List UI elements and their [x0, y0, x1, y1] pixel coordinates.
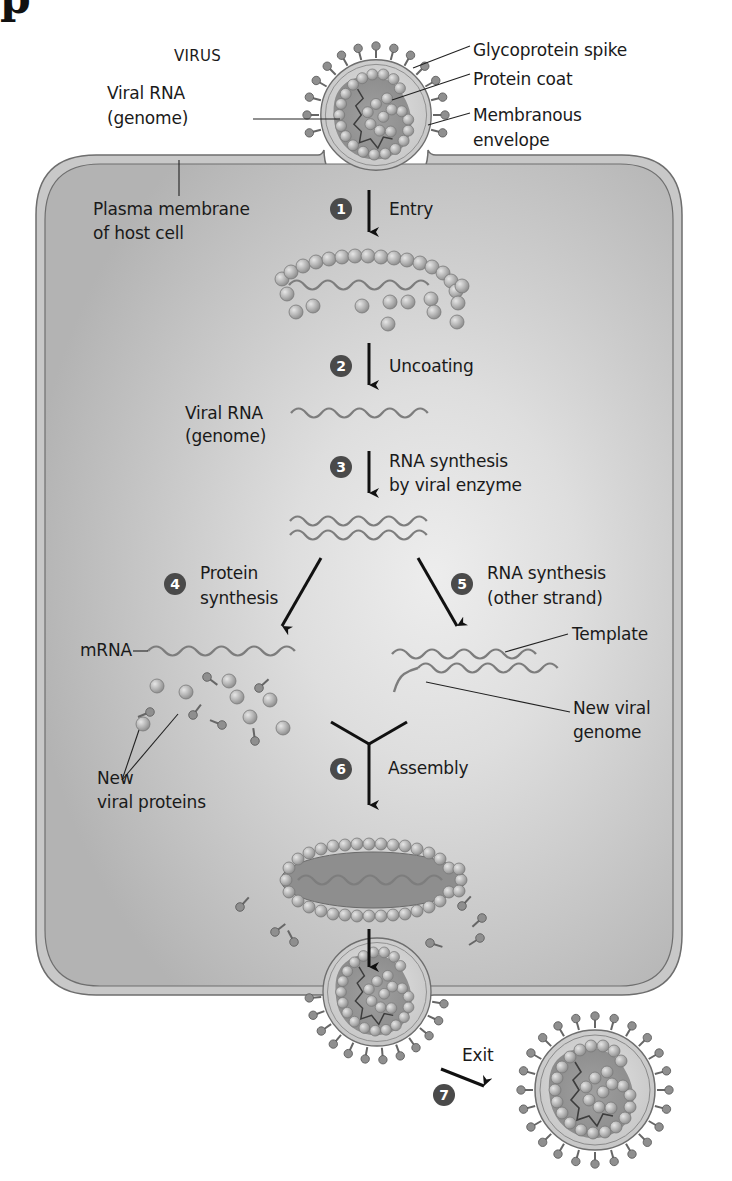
step-6-label: Assembly: [388, 758, 468, 779]
mrna-label: mRNA: [80, 640, 132, 661]
step-4-label-2: synthesis: [200, 588, 278, 609]
diagram-graphics: [0, 0, 732, 1181]
membranous-envelope-label-2: envelope: [473, 130, 550, 151]
released-virion: [517, 1012, 673, 1168]
step-7-label: Exit: [462, 1045, 493, 1066]
viral-rna-top-label-2: (genome): [107, 108, 188, 129]
virus-title: VIRUS: [174, 46, 221, 67]
new-viral-genome-label-2: genome: [573, 722, 641, 743]
step-1-label: Entry: [389, 199, 433, 220]
viral-rna-mid-label-1: Viral RNA: [185, 403, 263, 424]
protein-coat-label: Protein coat: [473, 69, 572, 90]
budding-virion: [323, 938, 431, 1046]
glycoprotein-spike-label: Glycoprotein spike: [473, 40, 627, 61]
step-5-badge: 5: [451, 573, 473, 595]
step-3-badge: 3: [330, 456, 352, 478]
viral-replication-diagram: p: [0, 0, 732, 1181]
entering-virion: [321, 60, 431, 170]
step-2-label: Uncoating: [389, 356, 474, 377]
new-viral-proteins-label-1: New: [97, 768, 133, 789]
new-viral-genome-label-1: New viral: [573, 698, 651, 719]
new-viral-proteins-label-2: viral proteins: [97, 792, 206, 813]
plasma-membrane-label-1: Plasma membrane: [93, 199, 250, 220]
step-5-label-1: RNA synthesis: [487, 563, 606, 584]
step-3-label-2: by viral enzyme: [389, 475, 522, 496]
step-6-badge: 6: [330, 758, 352, 780]
step-2-badge: 2: [330, 355, 352, 377]
step-1-badge: 1: [330, 198, 352, 220]
step-4-label-1: Protein: [200, 563, 258, 584]
plasma-membrane-label-2: of host cell: [93, 223, 184, 244]
step-5-label-2: (other strand): [487, 588, 603, 609]
template-label: Template: [572, 624, 648, 645]
membranous-envelope-label-1: Membranous: [473, 105, 582, 126]
viral-rna-top-label-1: Viral RNA: [107, 83, 185, 104]
step-7-badge: 7: [433, 1084, 455, 1106]
viral-rna-mid-label-2: (genome): [185, 426, 266, 447]
step-3-label-1: RNA synthesis: [389, 451, 508, 472]
step-4-badge: 4: [164, 573, 186, 595]
